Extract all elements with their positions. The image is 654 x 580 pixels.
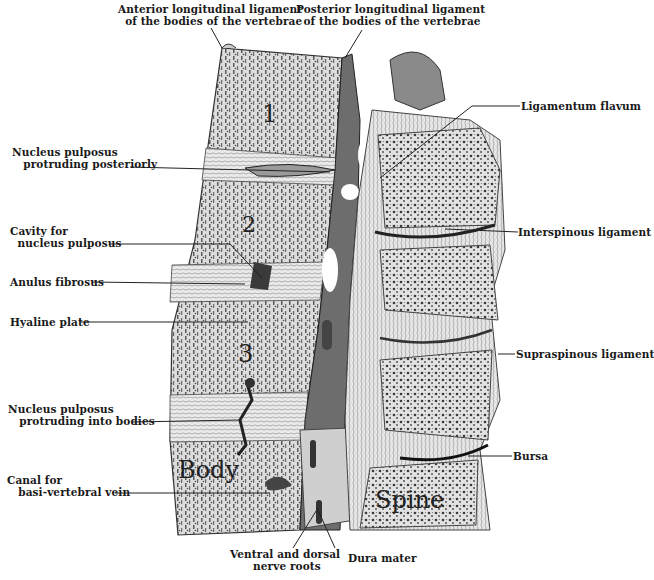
label-posterior-longitudinal-ligament: Posterior longitudinal ligament of the b… [296, 3, 485, 27]
posterior-elements: Spine [345, 52, 505, 530]
label-hyaline-plate: Hyaline plate [10, 316, 90, 328]
label-anulus-fibrosus: Anulus fibrosus [10, 276, 104, 288]
label-nucleus-pulposus-posteriorly: Nucleus pulposus protruding posteriorly [12, 146, 157, 170]
label-interspinous-ligament: Interspinous ligament [518, 226, 651, 238]
label-ligamentum-flavum: Ligamentum flavum [521, 100, 641, 112]
spine-label: Spine [375, 486, 444, 514]
label-canal-basivertebral-vein: Canal for basi-vertebral vein [7, 474, 130, 498]
label-nerve-roots: Ventral and dorsal nerve roots [230, 548, 340, 572]
vertebra-3-number: 3 [238, 340, 253, 368]
label-anterior-longitudinal-ligament: Anterior longitudinal ligament of the bo… [118, 3, 302, 27]
label-cavity-nucleus-pulposus: Cavity for nucleus pulposus [10, 225, 121, 249]
label-supraspinous-ligament: Supraspinous ligament [516, 348, 654, 360]
label-dura-mater: Dura mater [348, 552, 417, 564]
body-label: Body [178, 456, 239, 484]
label-bursa: Bursa [513, 450, 548, 462]
label-nucleus-pulposus-into-bodies: Nucleus pulposus protruding into bodies [8, 403, 155, 427]
vertebra-1-number: 1 [262, 100, 277, 128]
vertebra-2-number: 2 [242, 212, 256, 237]
